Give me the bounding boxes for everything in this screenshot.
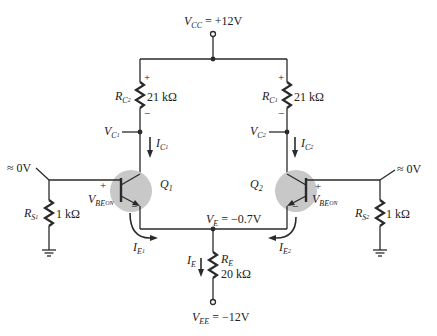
ground-left-icon — [42, 250, 56, 256]
rc1-value: 21 kΩ — [294, 91, 324, 103]
q2-vbe-minus: − — [292, 201, 298, 212]
ve-label: VE = −0.7V — [206, 213, 261, 225]
ic2-label: IC2 — [301, 137, 313, 149]
vee-sub: EE — [199, 317, 209, 326]
vc2-sub: C — [257, 131, 262, 140]
right-base-pointer — [380, 170, 395, 180]
ve-value: = −0.7V — [221, 212, 261, 226]
q1-symbol: Q — [160, 177, 169, 191]
q1-vbe-sub: BE — [95, 199, 105, 208]
ie1-label: IE1 — [133, 241, 145, 253]
rc1-sub: C — [269, 96, 274, 105]
rs1-value: 1 kΩ — [56, 208, 80, 220]
rc2-plus: + — [144, 72, 150, 83]
vc2-subsub: 2 — [263, 132, 266, 138]
ic1-subsub: 1 — [165, 144, 168, 150]
q1-vbe-minus: − — [131, 201, 137, 212]
vc1-label: VC1 — [104, 125, 120, 137]
ie2-label: IE2 — [279, 241, 291, 253]
ie1-subsub: 1 — [142, 248, 145, 254]
vee-value: = −12V — [212, 310, 249, 324]
ie-label: IE — [187, 254, 196, 266]
differential-amplifier-schematic — [0, 0, 437, 336]
re-resistor — [209, 252, 217, 278]
rc1-label: RC1 — [262, 90, 278, 102]
q2-vbe-subsub: ON — [329, 200, 337, 206]
vcc-label: VCC = +12V — [184, 15, 242, 27]
rc2-sub: C — [122, 96, 127, 105]
left-base-pointer — [36, 168, 49, 180]
rc2-value: 21 kΩ — [147, 91, 177, 103]
rs1-resistor — [45, 200, 53, 226]
rs2-resistor — [376, 200, 384, 226]
q1-vbe-plus: + — [100, 180, 106, 191]
rs1-label: RS1 — [24, 207, 38, 219]
ic1-label: IC1 — [156, 137, 168, 149]
re-label: RE — [221, 253, 233, 265]
q2-label: Q2 — [250, 178, 263, 190]
rc2-label: RC2 — [115, 90, 131, 102]
rc1-plus: + — [278, 72, 284, 83]
rc1-subsub: 1 — [275, 97, 278, 103]
rc1-resistor — [283, 82, 291, 108]
vee-label: VEE = −12V — [192, 311, 249, 323]
rc1-minus: − — [278, 108, 284, 119]
vc1-sub: C — [111, 131, 116, 140]
vcc-value: = +12V — [205, 14, 242, 28]
vc1-subsub: 1 — [117, 132, 120, 138]
q1-sub: 1 — [169, 184, 173, 193]
rs2-value: 1 kΩ — [386, 208, 410, 220]
base-left-voltage: ≈ 0V — [7, 162, 31, 174]
vcc-terminal — [211, 32, 216, 60]
ie2-subsub: 2 — [288, 248, 291, 254]
ic1-arrow-icon — [147, 137, 153, 158]
vee-terminal — [211, 300, 216, 305]
q1-vbe-label: VBEON — [88, 193, 113, 205]
ground-right-icon — [373, 250, 387, 256]
ic2-arrow-icon — [292, 137, 298, 158]
rc2-subsub: 2 — [128, 97, 131, 103]
ic2-subsub: 2 — [310, 144, 313, 150]
ie-sub: E — [191, 260, 196, 269]
q2-symbol: Q — [250, 177, 259, 191]
q2-sub: 2 — [259, 184, 263, 193]
ie1-arrow-icon — [130, 213, 158, 241]
rc2-minus: − — [144, 108, 150, 119]
ie-arrow-icon — [198, 258, 204, 277]
base-right-voltage: ≈ 0V — [397, 163, 421, 175]
rs2-label: RS2 — [355, 207, 369, 219]
rs2-subsub: 2 — [366, 214, 369, 220]
q2-vbe-label: VBEON — [312, 193, 337, 205]
ve-sub: E — [213, 219, 218, 228]
q1-vbe-subsub: ON — [105, 200, 113, 206]
vc2-label: VC2 — [250, 125, 266, 137]
vcc-junction — [211, 57, 215, 61]
q2-vbe-sub: BE — [319, 199, 329, 208]
vcc-sub: CC — [191, 21, 202, 30]
rs1-subsub: 1 — [35, 214, 38, 220]
q2-vbe-plus: + — [315, 181, 321, 192]
q1-label: Q1 — [160, 178, 173, 190]
rc2-resistor — [136, 82, 144, 108]
re-value: 20 kΩ — [221, 268, 251, 280]
